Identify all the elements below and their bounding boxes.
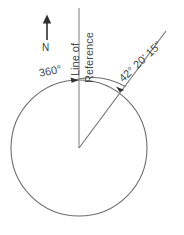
north-label: N (42, 43, 49, 53)
angle-arc (73, 78, 126, 87)
arc-start-arrowhead-icon (71, 78, 79, 83)
diagram-canvas: N Line of Reference 360° 42° 20' 15" (0, 0, 184, 235)
line-of-reference-label-top: Line of (70, 43, 81, 76)
line-of-reference-label-bottom: Reference (84, 32, 95, 83)
north-arrow-icon (43, 15, 51, 41)
